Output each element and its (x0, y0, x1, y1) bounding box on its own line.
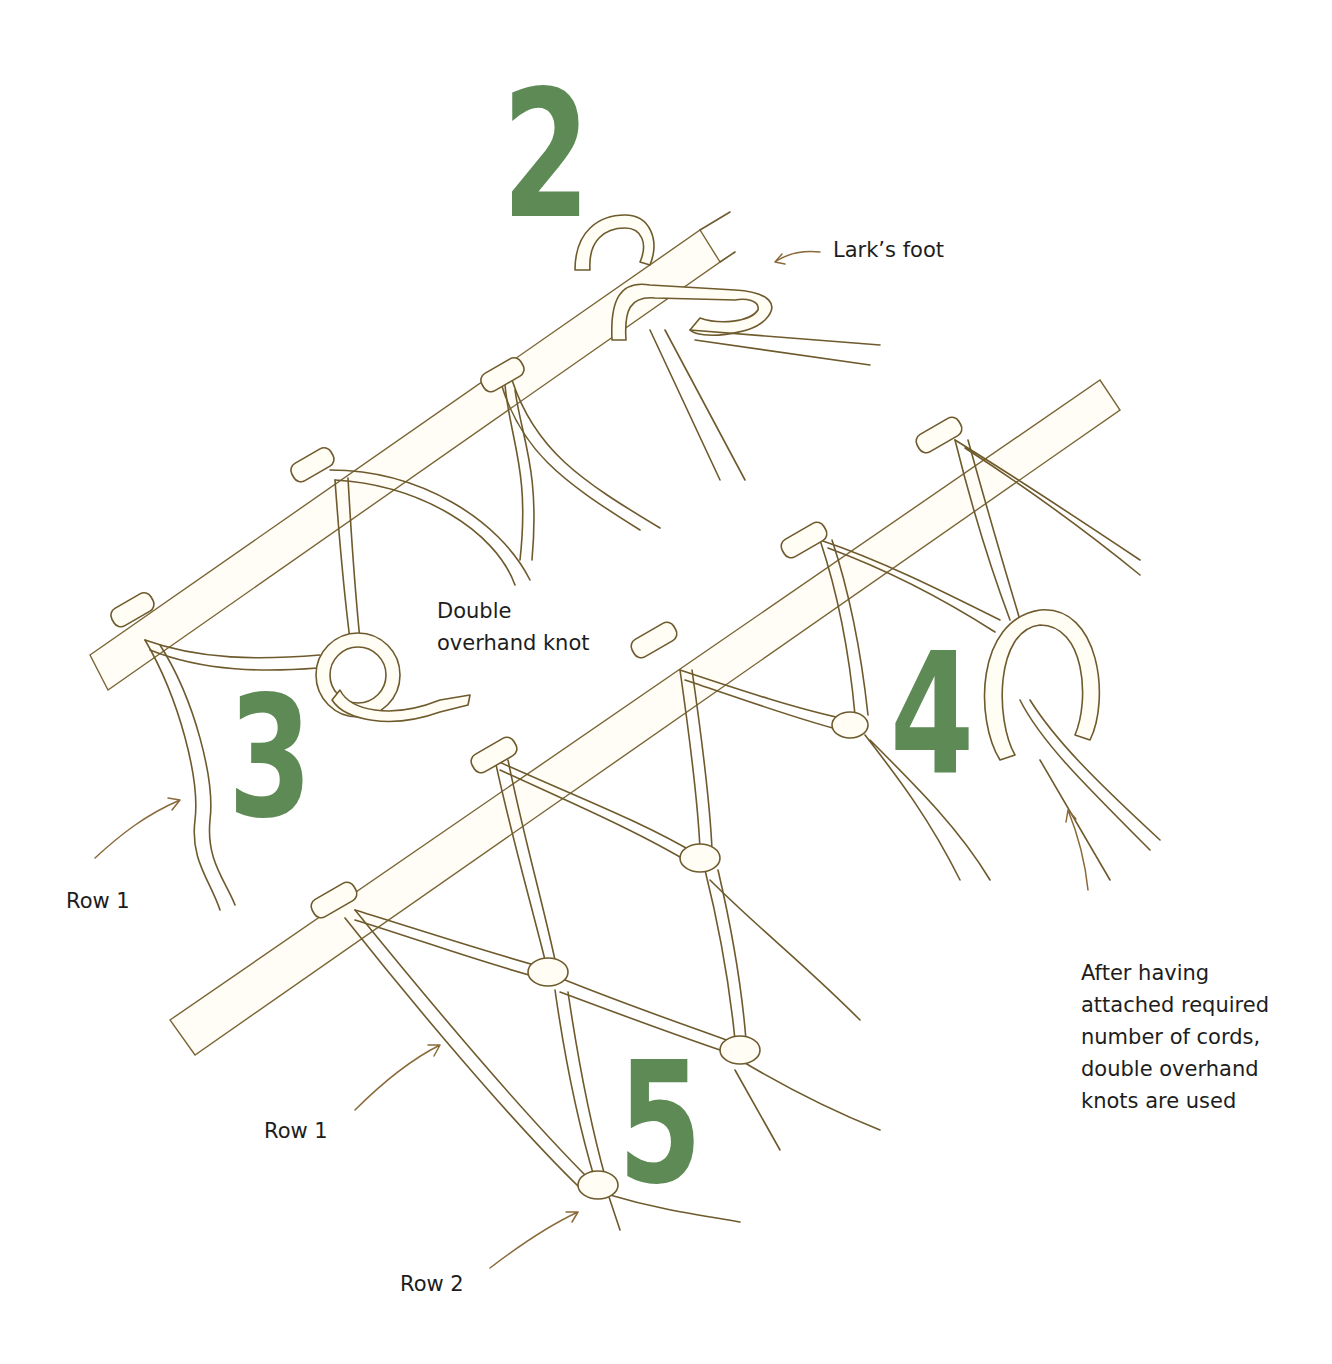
double-overhand-knot-step4 (985, 610, 1160, 880)
label-double-overhand-line1: Double (437, 595, 637, 627)
step-number-2: 2 (502, 68, 589, 244)
label-larks-foot: Lark’s foot (833, 234, 944, 266)
label-double-overhand-line2: overhand knot (437, 627, 637, 659)
label-row2-bottom: Row 2 (400, 1268, 464, 1300)
note-line-4: double overhand (1081, 1053, 1321, 1085)
note-line-5: knots are used (1081, 1085, 1321, 1117)
step-number-5: 5 (618, 1040, 701, 1208)
label-row1-bottom: Row 1 (264, 1115, 328, 1147)
note-line-3: number of cords, (1081, 1021, 1321, 1053)
label-double-overhand-knot: Double overhand knot (437, 595, 637, 659)
note-line-1: After having (1081, 957, 1321, 989)
label-row1-left: Row 1 (66, 885, 130, 917)
note-after-attaching: After having attached required number of… (1081, 957, 1321, 1117)
lower-dowel (170, 380, 1120, 1055)
step-number-3: 3 (228, 674, 311, 842)
note-line-2: attached required (1081, 989, 1321, 1021)
step-number-4: 4 (890, 630, 973, 798)
